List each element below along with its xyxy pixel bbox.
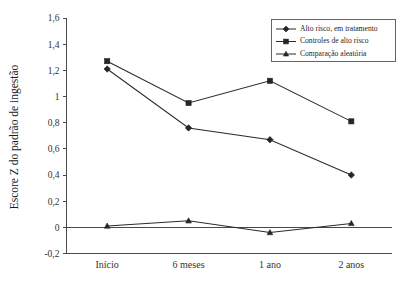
y-tick-label: 1,2 xyxy=(48,66,60,76)
y-tick-label: 0,4 xyxy=(48,170,60,180)
y-tick-label: 1,6 xyxy=(48,13,60,23)
marker-square xyxy=(105,59,110,64)
x-tick-label: Início xyxy=(96,259,119,270)
x-tick-label: 6 meses xyxy=(173,259,205,270)
chart-legend: Alto risco, em tratamentoControles de al… xyxy=(272,20,396,62)
y-tick-label: 0,2 xyxy=(48,197,60,207)
marker-square xyxy=(284,39,289,44)
legend-label: Alto risco, em tratamento xyxy=(300,24,378,33)
y-tick-label: 0,6 xyxy=(48,144,60,154)
chart-figure: Escore Z do padrão de ingestão 1,61,41,2… xyxy=(0,0,406,282)
marker-square xyxy=(267,78,272,83)
y-tick-label: 1 xyxy=(55,92,60,102)
legend-label: Comparação aleatória xyxy=(300,49,367,58)
marker-square xyxy=(186,100,191,105)
x-tick-label: 2 anos xyxy=(338,259,364,270)
line-chart: Escore Z do padrão de ingestão 1,61,41,2… xyxy=(0,0,406,282)
y-tick-label: 0 xyxy=(55,223,60,233)
y-tick-label: 1,4 xyxy=(48,40,60,50)
x-tick-label: 1 ano xyxy=(259,259,281,270)
y-tick-label: -0,2 xyxy=(44,249,59,259)
y-axis-title: Escore Z do padrão de ingestão xyxy=(8,64,21,209)
marker-square xyxy=(349,119,354,124)
y-tick-label: 0,8 xyxy=(48,118,60,128)
legend-label: Controles de alto risco xyxy=(300,36,369,45)
